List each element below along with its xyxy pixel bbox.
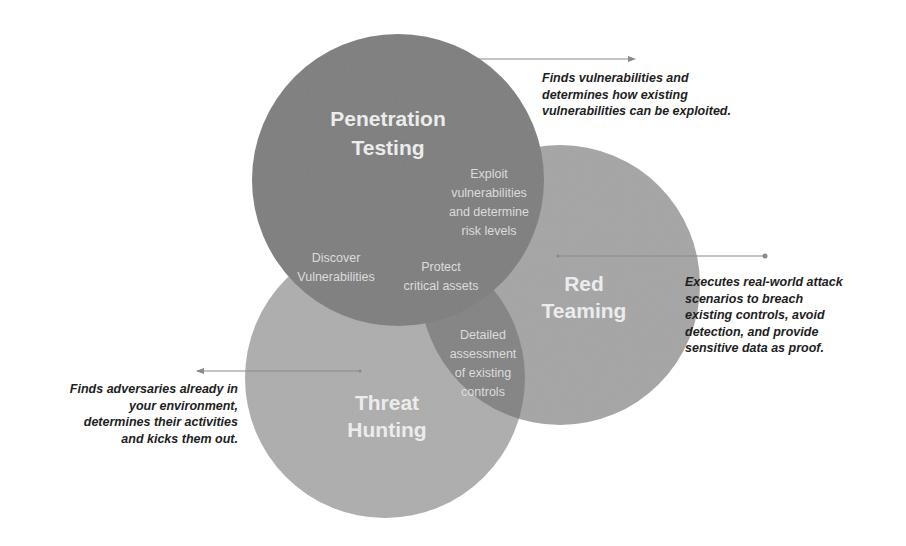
overlap-pen-threat-line2: Vulnerabilities — [297, 270, 374, 284]
title-red-teaming-line1: Red — [564, 272, 604, 295]
title-threat-hunting-line1: Threat — [355, 391, 419, 414]
overlap-pen-threat-line1: Discover — [312, 251, 361, 265]
title-red-teaming-line2: Teaming — [542, 299, 627, 322]
arrow-penetration-testing — [475, 56, 636, 62]
overlap-red-threat-line3: of existing — [455, 366, 511, 380]
overlap-center-line2: critical assets — [403, 279, 478, 293]
description-red-teaming: Executes real-world attack scenarios to … — [685, 274, 843, 357]
description-penetration-testing: Finds vulnerabilities and determines how… — [542, 70, 731, 120]
title-penetration-testing-line2: Testing — [351, 136, 424, 159]
description-threat-hunting: Finds adversaries already in your enviro… — [70, 381, 238, 447]
overlap-red-threat-line4: controls — [461, 385, 505, 399]
overlap-pen-red-line1: Exploit — [470, 167, 508, 181]
overlap-pen-red-line4: risk levels — [462, 224, 517, 238]
overlap-pen-red-line2: vulnerabilities — [451, 186, 527, 200]
overlap-red-threat-line2: assessment — [450, 347, 517, 361]
title-penetration-testing-line1: Penetration — [330, 107, 446, 130]
title-threat-hunting-line2: Hunting — [347, 418, 426, 441]
overlap-red-threat-line1: Detailed — [460, 328, 506, 342]
overlap-pen-red-line3: and determine — [449, 205, 529, 219]
venn-diagram: Penetration Testing Red Teaming Threat H… — [0, 0, 906, 546]
overlap-center-line1: Protect — [421, 260, 461, 274]
